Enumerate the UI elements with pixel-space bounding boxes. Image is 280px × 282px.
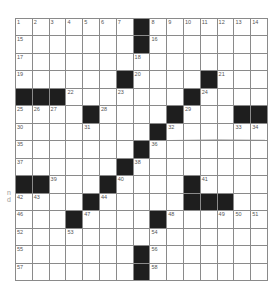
grid-cell[interactable] (100, 124, 117, 141)
grid-cell[interactable] (117, 124, 134, 141)
grid-cell[interactable] (150, 106, 167, 123)
grid-cell[interactable] (50, 71, 67, 88)
grid-cell[interactable] (234, 141, 251, 158)
grid-cell[interactable] (50, 54, 67, 71)
grid-cell[interactable] (251, 229, 268, 246)
grid-cell[interactable] (234, 176, 251, 193)
grid-cell[interactable] (50, 229, 67, 246)
grid-cell[interactable] (167, 141, 184, 158)
grid-cell[interactable] (33, 246, 50, 263)
grid-cell[interactable] (100, 36, 117, 53)
grid-cell[interactable]: 23 (117, 89, 134, 106)
grid-cell[interactable]: 52 (16, 229, 33, 246)
grid-cell[interactable] (150, 159, 167, 176)
grid-cell[interactable]: 50 (234, 211, 251, 228)
grid-cell[interactable] (218, 89, 235, 106)
grid-cell[interactable]: 24 (201, 89, 218, 106)
grid-cell[interactable] (33, 71, 50, 88)
grid-cell[interactable]: 22 (66, 89, 83, 106)
grid-cell[interactable] (66, 176, 83, 193)
grid-cell[interactable] (184, 211, 201, 228)
grid-cell[interactable] (184, 54, 201, 71)
grid-cell[interactable]: 57 (16, 264, 33, 281)
grid-cell[interactable] (50, 246, 67, 263)
grid-cell[interactable]: 40 (117, 176, 134, 193)
grid-cell[interactable] (66, 159, 83, 176)
grid-cell[interactable] (167, 36, 184, 53)
grid-cell[interactable] (66, 246, 83, 263)
grid-cell[interactable]: 11 (201, 19, 218, 36)
grid-cell[interactable]: 54 (150, 229, 167, 246)
grid-cell[interactable] (134, 89, 151, 106)
grid-cell[interactable] (83, 176, 100, 193)
grid-cell[interactable]: 46 (16, 211, 33, 228)
grid-cell[interactable] (251, 159, 268, 176)
grid-cell[interactable] (150, 89, 167, 106)
grid-cell[interactable] (218, 159, 235, 176)
grid-cell[interactable]: 38 (134, 159, 151, 176)
grid-cell[interactable]: 56 (150, 246, 167, 263)
grid-cell[interactable] (150, 54, 167, 71)
grid-cell[interactable] (83, 141, 100, 158)
grid-cell[interactable]: 8 (150, 19, 167, 36)
grid-cell[interactable] (66, 54, 83, 71)
grid-cell[interactable] (167, 54, 184, 71)
grid-cell[interactable]: 7 (117, 19, 134, 36)
grid-cell[interactable]: 2 (33, 19, 50, 36)
grid-cell[interactable]: 21 (218, 71, 235, 88)
grid-cell[interactable]: 1 (16, 19, 33, 36)
grid-cell[interactable] (83, 54, 100, 71)
grid-cell[interactable] (33, 124, 50, 141)
grid-cell[interactable]: 25 (16, 106, 33, 123)
grid-cell[interactable] (251, 54, 268, 71)
grid-cell[interactable] (100, 54, 117, 71)
grid-cell[interactable] (150, 176, 167, 193)
grid-cell[interactable]: 12 (218, 19, 235, 36)
grid-cell[interactable] (83, 159, 100, 176)
grid-cell[interactable] (100, 89, 117, 106)
grid-cell[interactable]: 42 (16, 194, 33, 211)
grid-cell[interactable]: 49 (218, 211, 235, 228)
grid-cell[interactable]: 51 (251, 211, 268, 228)
grid-cell[interactable]: 9 (167, 19, 184, 36)
grid-cell[interactable] (66, 264, 83, 281)
grid-cell[interactable] (100, 71, 117, 88)
grid-cell[interactable] (117, 246, 134, 263)
grid-cell[interactable] (234, 246, 251, 263)
grid-cell[interactable] (234, 159, 251, 176)
grid-cell[interactable]: 27 (50, 106, 67, 123)
grid-cell[interactable] (251, 176, 268, 193)
grid-cell[interactable]: 15 (16, 36, 33, 53)
grid-cell[interactable]: 6 (100, 19, 117, 36)
grid-cell[interactable] (218, 36, 235, 53)
grid-cell[interactable] (184, 264, 201, 281)
grid-cell[interactable]: 47 (83, 211, 100, 228)
grid-cell[interactable] (33, 54, 50, 71)
grid-cell[interactable] (201, 141, 218, 158)
grid-cell[interactable] (184, 71, 201, 88)
grid-cell[interactable] (167, 229, 184, 246)
grid-cell[interactable] (184, 36, 201, 53)
grid-cell[interactable] (218, 54, 235, 71)
grid-cell[interactable]: 29 (184, 106, 201, 123)
grid-cell[interactable] (201, 211, 218, 228)
grid-cell[interactable] (218, 229, 235, 246)
grid-cell[interactable]: 26 (33, 106, 50, 123)
grid-cell[interactable] (66, 36, 83, 53)
grid-cell[interactable] (83, 229, 100, 246)
grid-cell[interactable] (201, 246, 218, 263)
grid-cell[interactable] (218, 246, 235, 263)
grid-cell[interactable] (184, 159, 201, 176)
grid-cell[interactable] (117, 264, 134, 281)
grid-cell[interactable] (100, 141, 117, 158)
grid-cell[interactable]: 37 (16, 159, 33, 176)
grid-cell[interactable] (50, 141, 67, 158)
grid-cell[interactable] (234, 71, 251, 88)
grid-cell[interactable]: 31 (83, 124, 100, 141)
grid-cell[interactable]: 36 (150, 141, 167, 158)
grid-cell[interactable] (50, 36, 67, 53)
grid-cell[interactable] (100, 211, 117, 228)
grid-cell[interactable] (83, 264, 100, 281)
grid-cell[interactable] (117, 194, 134, 211)
grid-cell[interactable]: 53 (66, 229, 83, 246)
